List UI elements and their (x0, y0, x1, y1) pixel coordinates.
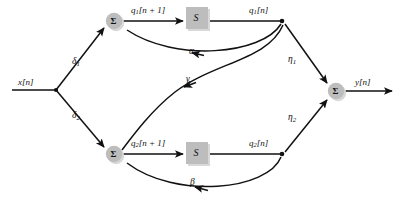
sum-node-bottom-glyph: Σ (111, 150, 117, 159)
edge-delta2 (56, 90, 104, 147)
edge-gamma (122, 25, 283, 150)
input-signal-index: [n] (22, 77, 34, 87)
coefficient-eta1-label: η1 (288, 55, 296, 65)
output-signal-index: [n] (359, 77, 371, 87)
input-signal-label: x[n] (18, 78, 34, 87)
coefficient-delta2-sub: 2 (76, 114, 79, 121)
coefficient-eta1-sub: 1 (293, 58, 296, 65)
coefficient-eta2-label: η2 (288, 113, 296, 123)
state1-next-index: [n + 1] (139, 5, 166, 15)
state2-next-index: [n + 1] (139, 138, 166, 148)
edge-beta-arrowhead (195, 187, 208, 191)
state1-label: q1[n] (249, 6, 268, 16)
sum-node-output-glyph: Σ (333, 87, 339, 96)
q1-junction-dot (280, 19, 285, 24)
coefficient-delta1-label: δ1 (72, 57, 80, 67)
coefficient-eta2-sub: 2 (293, 116, 296, 123)
coefficient-alpha-label: α (189, 47, 194, 57)
coefficient-gamma-label: γ (186, 75, 190, 85)
coefficient-beta-label: β (190, 178, 195, 188)
coefficient-delta1-sub: 1 (76, 60, 79, 67)
edge-delta1 (56, 28, 104, 90)
signal-flow-diagram: Σ Σ Σ S S x[n] y[n] q1[n + 1] q1[n] q2[n… (0, 0, 401, 206)
edge-eta2 (285, 100, 327, 152)
state1-index: [n] (257, 5, 269, 15)
output-signal-label: y[n] (355, 78, 371, 87)
delay-block-1-glyph: S (194, 13, 199, 23)
diagram-canvas (0, 0, 401, 206)
state2-index: [n] (257, 138, 269, 148)
state2-next-label: q2[n + 1] (131, 139, 165, 149)
state2-label: q2[n] (249, 139, 268, 149)
delay-block-2-glyph: S (194, 148, 199, 158)
state1-next-label: q1[n + 1] (131, 6, 165, 16)
coefficient-delta2-label: δ2 (72, 111, 80, 121)
q2-junction-dot (280, 152, 285, 157)
sum-node-top-glyph: Σ (111, 17, 117, 26)
